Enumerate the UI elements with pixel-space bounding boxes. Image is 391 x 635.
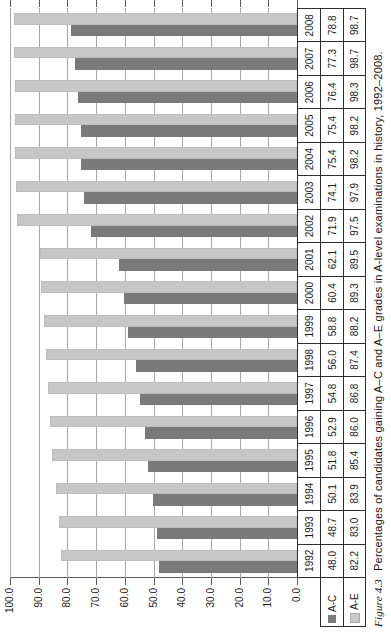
bar-ac-1999 [128,327,297,339]
y-tick-label: 80.0 [61,588,73,630]
bar-ae-2008 [14,13,297,25]
bar-ac-2008 [71,25,297,37]
bar-ae-2006 [15,80,297,92]
bar-ae-1997 [48,382,297,394]
value-cell: 51.8 [320,444,343,477]
bar-ae-1998 [46,349,297,361]
bar-ac-1993 [157,528,297,540]
y-tick-label: 90.0 [33,588,45,630]
y-axis-tick-right [10,0,11,7]
figure-page: 100.090.080.070.060.050.040.030.020.010.… [0,0,391,635]
value-cell: 85.4 [343,444,366,477]
y-axis-tick [240,578,241,585]
bar-ae-2007 [14,47,297,59]
value-cell: 48.7 [320,511,343,544]
bar-ae-2005 [15,114,297,126]
figure-caption: Figure 4.3Percentages of candidates gain… [372,51,384,627]
bar-ac-2007 [75,58,297,70]
y-axis-tick [10,578,11,585]
value-cell: 98.2 [343,109,366,142]
value-cell: 88.2 [343,310,366,343]
y-axis-tick [39,578,40,585]
year-cell: 2003 [297,176,320,209]
y-axis-tick [125,578,126,585]
y-tick-label: 100.0 [4,588,16,630]
y-axis-tick-right [268,0,269,7]
value-cell: 86.0 [343,411,366,444]
value-cell: 98.3 [343,76,366,109]
bar-ac-2002 [91,226,297,238]
bar-ae-2004 [15,147,297,159]
year-cell: 2000 [297,277,320,310]
bar-ae-1999 [44,315,297,327]
bar-ae-2000 [41,282,297,294]
value-cell: 87.4 [343,344,366,377]
value-cell: 76.4 [320,76,343,109]
table-row-years: 1992199319941995199619971998199920002001… [297,8,320,627]
year-cell: 1997 [297,377,320,410]
chart-canvas: 100.090.080.070.060.050.040.030.020.010.… [0,0,391,635]
year-cell: 1993 [297,511,320,544]
value-cell: 89.3 [343,277,366,310]
y-axis-tick-right [211,0,212,7]
legend-key-ac: A-C [320,578,343,627]
y-axis-tick-right [182,0,183,7]
legend-label: A-E [349,593,360,610]
bar-ac-1997 [140,394,297,406]
value-cell: 98.2 [343,143,366,176]
y-tick-label: 40.0 [176,588,188,630]
bar-ac-2001 [119,259,297,271]
bar-ac-2003 [84,192,297,204]
table-row-ae: A-E82.283.083.985.486.086.887.488.289.38… [343,8,366,627]
year-cell: 2007 [297,43,320,76]
y-tick-label: 70.0 [90,588,102,630]
y-axis-tick [96,578,97,585]
year-cell: 2008 [297,8,320,42]
value-cell: 54.8 [320,377,343,410]
value-cell: 83.9 [343,478,366,511]
legend-label: A-C [327,595,338,612]
value-cell: 77.3 [320,43,343,76]
year-cell: 1995 [297,444,320,477]
year-cell: 1998 [297,344,320,377]
y-axis-tick-right [297,0,298,7]
value-cell: 98.7 [343,8,366,42]
year-cell: 1996 [297,411,320,444]
y-axis-tick [182,578,183,585]
y-gridline [10,8,11,578]
y-tick-label: 20.0 [234,588,246,630]
y-tick-label: 10.0 [262,588,274,630]
bar-ae-2001 [40,248,297,260]
y-axis-tick-right [39,0,40,7]
y-axis-tick-right [154,0,155,7]
bar-ac-1995 [148,461,297,473]
year-cell: 1994 [297,478,320,511]
value-cell: 75.4 [320,109,343,142]
figure-caption-text: Percentages of candidates gaining A–C an… [372,51,384,571]
year-cell: 2002 [297,210,320,243]
value-cell: 52.9 [320,411,343,444]
bar-ac-1998 [136,360,297,372]
y-tick-label: 60.0 [119,588,131,630]
y-axis-tick [154,578,155,585]
bar-ae-1992 [61,550,297,562]
y-gridline [39,8,40,578]
value-cell: 50.1 [320,478,343,511]
value-cell: 48.0 [320,545,343,578]
bar-ac-2006 [78,92,297,104]
y-axis-tick [268,578,269,585]
y-axis-tick-right [96,0,97,7]
value-cell: 89.5 [343,243,366,276]
value-cell: 74.1 [320,176,343,209]
bar-ac-1996 [145,427,297,439]
y-axis-tick [211,578,212,585]
value-cell: 56.0 [320,344,343,377]
year-cell: 1999 [297,310,320,343]
value-cell: 58.8 [320,310,343,343]
value-cell: 83.0 [343,511,366,544]
table-corner-empty [297,578,320,627]
year-cell: 2005 [297,109,320,142]
bar-ae-1995 [52,449,297,461]
bar-ae-2002 [17,214,297,226]
year-cell: 2001 [297,243,320,276]
